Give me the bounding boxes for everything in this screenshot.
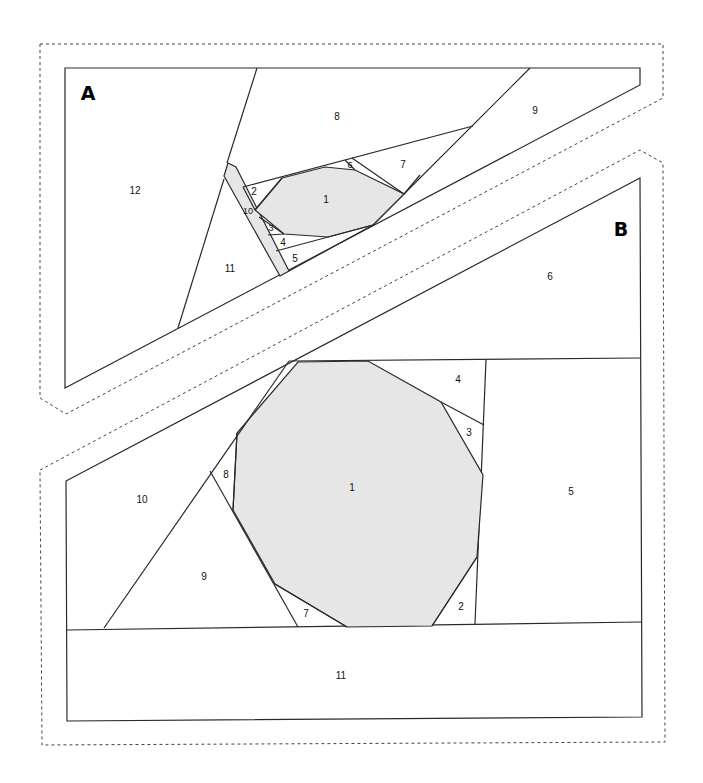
- section-a-piece-7-label: 7: [400, 159, 406, 170]
- section-b-piece-11-label: 11: [336, 670, 347, 681]
- section-a-piece-4-label: 4: [280, 237, 286, 248]
- section-a-piece-10-label: 10: [243, 206, 253, 216]
- section-b-piece-3-label: 3: [466, 427, 472, 438]
- section-b-piece-4-label: 4: [455, 374, 461, 385]
- section-b-piece-9-label: 9: [201, 571, 207, 582]
- section-b-piece-2-label: 2: [458, 601, 464, 612]
- section-a-piece-1-label: 1: [323, 194, 329, 205]
- section-a-piece-8-label: 8: [334, 111, 340, 122]
- section-a-piece-9-label: 9: [532, 105, 538, 116]
- section-b-label: B: [614, 218, 628, 240]
- section-b-piece-6-label: 6: [547, 271, 553, 282]
- section-b-piece-10-label: 10: [136, 494, 148, 505]
- section-b-piece-7-label: 7: [303, 608, 309, 619]
- section-a-piece-11-label: 11: [225, 263, 236, 274]
- section-a-piece-6-label: 6: [347, 160, 352, 170]
- section-a-piece-3-label: 3: [268, 223, 273, 233]
- section-a-label: A: [81, 82, 96, 104]
- section-b-piece-1-label: 1: [349, 482, 355, 493]
- section-a-piece-5-label: 5: [292, 253, 298, 264]
- paper-piecing-diagram: A 1 2 3 4 5 6 7 8 9 10 11 12 B: [0, 0, 703, 783]
- section-b-piece-8-label: 8: [223, 469, 229, 480]
- section-b-piece-5-label: 5: [568, 486, 574, 497]
- section-a-piece-12-label: 12: [129, 185, 141, 196]
- section-a-piece-2-label: 2: [251, 186, 257, 197]
